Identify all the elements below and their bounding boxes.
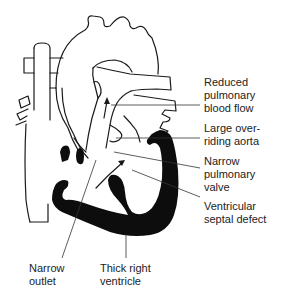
- flow-arrows: [96, 101, 122, 188]
- septal-lines: [74, 116, 140, 152]
- label-narrow-pulmonary-valve: Narrow pulmonary valve: [204, 155, 255, 194]
- thick-right-ventricle-shape: [52, 130, 179, 236]
- leader-pulmonary-valve: [114, 152, 200, 168]
- label-large-overriding-aorta: Large over- riding aorta: [204, 122, 260, 148]
- label-narrow-outlet: Narrow outlet: [29, 262, 64, 288]
- left-atrium-wall: [25, 124, 48, 222]
- label-thick-right-ventricle: Thick right ventricle: [100, 262, 151, 288]
- heart-diagram: [0, 0, 281, 300]
- label-reduced-pulmonary-blood-flow: Reduced pulmonary blood flow: [204, 76, 255, 115]
- label-ventricular-septal-defect: Ventricular septal defect: [204, 200, 266, 226]
